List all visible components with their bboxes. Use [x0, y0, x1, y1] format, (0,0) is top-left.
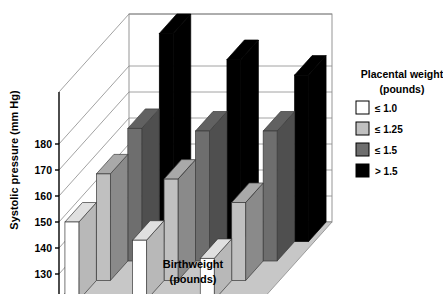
bar-1-2	[96, 154, 127, 280]
legend-item-label: ≤ 1.0	[375, 103, 398, 114]
x-axis-units: (pounds)	[169, 273, 216, 285]
legend-item-label: ≤ 1.25	[375, 124, 403, 135]
bar-3-4	[295, 56, 326, 242]
y-tick-label: 130	[34, 268, 52, 280]
legend-items: ≤ 1.0≤ 1.25≤ 1.5> 1.5	[356, 101, 403, 177]
y-tick-label: 150	[34, 216, 52, 228]
legend-subtitle: (pounds)	[380, 83, 425, 95]
y-tick-label: 180	[34, 138, 52, 150]
chart-container: Systolic pressure (mm Hg) 12013014015016…	[0, 0, 443, 294]
y-tick-label: 160	[34, 190, 52, 202]
bar-3-2	[232, 183, 263, 281]
legend: Placental weight (pounds) ≤ 1.0≤ 1.25≤ 1…	[356, 68, 443, 177]
systolic-pressure-3d-bar-chart: Systolic pressure (mm Hg) 12013014015016…	[0, 0, 443, 294]
y-tick-label: 140	[34, 242, 52, 254]
legend-item[interactable]: ≤ 1.0	[356, 101, 398, 114]
legend-item-label: ≤ 1.5	[375, 145, 398, 156]
bar-1-1	[65, 203, 96, 294]
legend-item-label: > 1.5	[375, 166, 398, 177]
x-axis-title: Birthweight	[163, 258, 224, 270]
y-axis-ticks: 120130140150160170180	[34, 92, 59, 294]
legend-item[interactable]: ≤ 1.5	[356, 143, 398, 156]
legend-item[interactable]: ≤ 1.25	[356, 122, 403, 135]
legend-item[interactable]: > 1.5	[356, 164, 398, 177]
y-tick-label: 170	[34, 164, 52, 176]
y-axis-title: Systolic pressure (mm Hg)	[8, 90, 20, 230]
bar-3-3	[263, 112, 294, 262]
legend-title: Placental weight	[361, 68, 443, 80]
